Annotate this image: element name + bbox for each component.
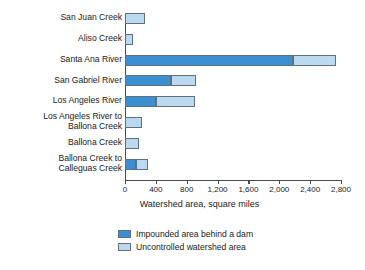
x-tick bbox=[279, 180, 280, 184]
bar-segment-uncontrolled[interactable] bbox=[136, 159, 148, 170]
x-tick bbox=[248, 180, 249, 184]
category-label: San Gabriel River bbox=[54, 76, 122, 86]
legend-label: Uncontrolled watershed area bbox=[136, 241, 246, 253]
bar-segment-uncontrolled[interactable] bbox=[125, 117, 142, 128]
category-label: Los Angeles River to Ballona Creek bbox=[43, 112, 122, 131]
legend-item[interactable]: Uncontrolled watershed area bbox=[118, 241, 253, 253]
bar-segment-uncontrolled[interactable] bbox=[125, 13, 145, 24]
bar-segment-impounded[interactable] bbox=[125, 55, 293, 66]
category-label: Ballona Creek to Calleguas Creek bbox=[58, 154, 122, 173]
legend-swatch-dark bbox=[118, 230, 131, 238]
x-tick-label: 2,000 bbox=[269, 185, 289, 195]
x-tick-label: 2,800 bbox=[331, 185, 351, 195]
bar-segment-impounded[interactable] bbox=[125, 96, 156, 107]
category-label: Aliso Creek bbox=[78, 34, 122, 44]
bar-segment-uncontrolled[interactable] bbox=[156, 96, 195, 107]
chart-legend: Impounded area behind a damUncontrolled … bbox=[118, 228, 253, 254]
x-tick bbox=[156, 180, 157, 184]
bar-segment-uncontrolled[interactable] bbox=[171, 75, 196, 86]
bar-segment-uncontrolled[interactable] bbox=[125, 34, 133, 45]
bar-segment-impounded[interactable] bbox=[125, 159, 136, 170]
category-label: Ballona Creek bbox=[68, 138, 122, 148]
bar-segment-impounded[interactable] bbox=[125, 75, 171, 86]
category-label: Los Angeles River bbox=[53, 96, 122, 106]
x-tick-label: 0 bbox=[123, 185, 127, 195]
bar-segment-uncontrolled[interactable] bbox=[293, 55, 336, 66]
watershed-area-bar-chart: San Juan CreekAliso CreekSanta Ana River… bbox=[0, 0, 365, 270]
x-tick bbox=[125, 180, 126, 184]
x-tick-label: 2,400 bbox=[300, 185, 320, 195]
x-tick-label: 1,200 bbox=[208, 185, 228, 195]
x-tick bbox=[187, 180, 188, 184]
category-label: San Juan Creek bbox=[60, 13, 122, 23]
category-label: Santa Ana River bbox=[60, 55, 122, 65]
x-tick bbox=[310, 180, 311, 184]
x-axis-title-text: Watershed area, square miles bbox=[106, 199, 260, 209]
x-tick bbox=[341, 180, 342, 184]
legend-swatch-light bbox=[118, 243, 131, 251]
x-tick bbox=[218, 180, 219, 184]
x-tick-label: 1,600 bbox=[238, 185, 258, 195]
legend-label: Impounded area behind a dam bbox=[136, 228, 253, 240]
bar-segment-uncontrolled[interactable] bbox=[125, 138, 139, 149]
x-axis-title: Watershed area, square miles bbox=[0, 199, 365, 209]
x-tick-label: 800 bbox=[180, 185, 193, 195]
x-tick-label: 400 bbox=[149, 185, 162, 195]
legend-item[interactable]: Impounded area behind a dam bbox=[118, 228, 253, 240]
